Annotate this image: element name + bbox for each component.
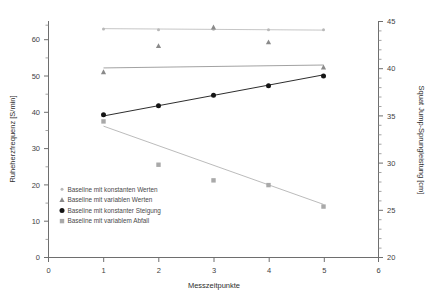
- y-ticklabel: 30: [32, 144, 40, 153]
- legend-label-0: Baseline mit konstanten Werten: [68, 186, 159, 193]
- data-point: [266, 183, 270, 187]
- data-point: [101, 69, 106, 74]
- data-point: [321, 73, 326, 78]
- data-point: [321, 204, 325, 208]
- y-ticklabel-right: 20: [387, 253, 395, 262]
- y-ticklabel-right: 30: [387, 159, 395, 168]
- legend-label-2: Baseline mit konstanter Steigung: [68, 207, 162, 215]
- data-point: [266, 83, 271, 88]
- data-point: [156, 103, 161, 108]
- x-ticklabel: 6: [376, 266, 380, 275]
- data-point: [101, 119, 105, 123]
- x-ticklabel: 5: [322, 266, 326, 275]
- y-ticklabel-right: 35: [387, 112, 395, 121]
- y-ticklabel: 40: [32, 108, 40, 117]
- x-ticklabel: 4: [267, 266, 271, 275]
- y-axis-right: 20 25 30 35 40 45 Squat Jump-Sprungleist…: [379, 17, 427, 262]
- x-ticklabel: 2: [157, 266, 161, 275]
- chart-legend: Baseline mit konstanten WertenBaseline m…: [59, 186, 161, 225]
- data-point: [156, 43, 161, 48]
- data-point: [157, 28, 160, 31]
- data-point: [101, 112, 106, 117]
- series-1: [101, 25, 326, 75]
- y-ticklabel: 20: [32, 181, 40, 190]
- y-axis-left-title: Ruheherzfrequenz [S/min]: [8, 95, 17, 182]
- y-ticklabel: 0: [36, 253, 40, 262]
- chart-container: 0 10 20 30 40 50 60 Ruheherzfrequenz [S/…: [0, 0, 430, 294]
- series-3-trendline: [104, 126, 324, 204]
- legend-marker-0: [61, 188, 64, 191]
- y-ticklabel: 10: [32, 217, 40, 226]
- legend-label-1: Baseline mit variablen Werten: [68, 196, 153, 203]
- legend-marker-1: [59, 197, 64, 202]
- series-layer: [101, 25, 326, 209]
- y-axis-right-title: Squat Jump-Sprungleistung [cm]: [417, 86, 426, 195]
- legend-label-3: Baseline mit variablem Abfall: [68, 217, 150, 224]
- x-axis: 0 1 2 3 4 5 6 Messzeitpunkte: [46, 258, 380, 291]
- scatter-chart: 0 10 20 30 40 50 60 Ruheherzfrequenz [S/…: [0, 0, 430, 294]
- legend-marker-2: [60, 208, 65, 213]
- series-2: [101, 73, 326, 117]
- y-ticklabel: 50: [32, 72, 40, 81]
- y-axis-left: 0 10 20 30 40 50 60 Ruheherzfrequenz [S/…: [8, 21, 49, 262]
- x-axis-title: Messzeitpunkte: [188, 281, 240, 290]
- series-1-trendline: [104, 65, 324, 68]
- y-ticklabel: 60: [32, 35, 40, 44]
- data-point: [211, 93, 216, 98]
- x-ticklabel: 0: [46, 266, 50, 275]
- data-point: [266, 40, 271, 45]
- x-ticklabel: 1: [102, 266, 106, 275]
- data-point: [211, 178, 215, 182]
- legend-marker-3: [60, 219, 64, 223]
- y-ticklabel-right: 45: [387, 17, 395, 26]
- data-point: [102, 28, 105, 31]
- y-ticklabel-right: 25: [387, 206, 395, 215]
- x-ticklabel: 3: [212, 266, 216, 275]
- data-point: [156, 163, 160, 167]
- plot-area: 0 10 20 30 40 50 60 Ruheherzfrequenz [S/…: [8, 17, 426, 290]
- data-point: [267, 28, 270, 31]
- data-point: [211, 25, 216, 30]
- y-ticklabel-right: 40: [387, 64, 395, 73]
- data-point: [322, 28, 325, 31]
